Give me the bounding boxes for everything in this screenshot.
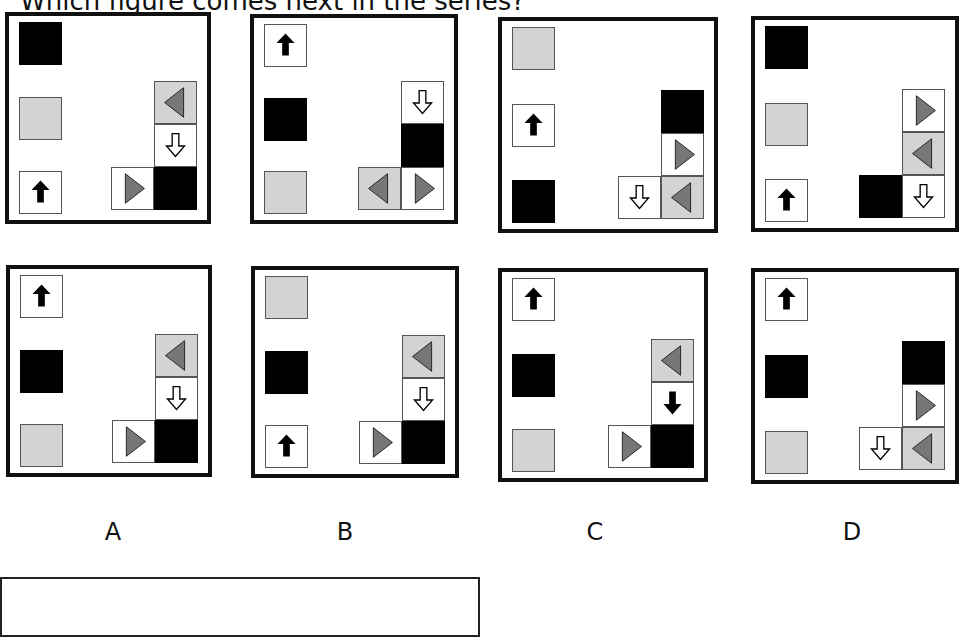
option-panel-c[interactable] xyxy=(498,268,708,482)
right-triangle-icon xyxy=(401,167,444,210)
right-triangle-icon xyxy=(608,425,651,468)
series-panel-2 xyxy=(250,14,458,224)
series-panel-4 xyxy=(751,16,959,232)
black-square xyxy=(651,425,694,468)
up-arrow-icon xyxy=(765,278,808,321)
black-square xyxy=(19,22,62,65)
black-square xyxy=(402,421,445,464)
gray-square xyxy=(765,431,808,474)
up-arrow-icon xyxy=(265,425,308,468)
left-triangle-icon xyxy=(651,339,694,382)
right-triangle-icon xyxy=(902,384,945,427)
up-arrow-icon xyxy=(19,171,62,214)
option-label-b[interactable]: B xyxy=(325,518,365,546)
down-arrow-hollow-icon xyxy=(618,176,661,219)
black-square xyxy=(765,26,808,69)
down-arrow-filled-icon xyxy=(651,382,694,425)
black-square xyxy=(401,124,444,167)
down-arrow-hollow-icon xyxy=(402,378,445,421)
black-square xyxy=(265,351,308,394)
down-arrow-hollow-icon xyxy=(154,124,197,167)
gray-square xyxy=(19,97,62,140)
gray-square xyxy=(512,429,555,472)
black-square xyxy=(264,98,307,141)
black-square xyxy=(661,90,704,133)
left-triangle-icon xyxy=(358,167,401,210)
option-label-d[interactable]: D xyxy=(832,518,872,546)
gray-square xyxy=(512,27,555,70)
black-square xyxy=(512,354,555,397)
down-arrow-hollow-icon xyxy=(401,81,444,124)
black-square xyxy=(512,180,555,223)
gray-square xyxy=(264,171,307,214)
gray-square xyxy=(265,276,308,319)
gray-square xyxy=(20,424,63,467)
down-arrow-hollow-icon xyxy=(155,377,198,420)
black-square xyxy=(155,420,198,463)
answer-input-box[interactable] xyxy=(0,577,480,637)
left-triangle-icon xyxy=(402,335,445,378)
right-triangle-icon xyxy=(359,421,402,464)
black-square xyxy=(765,355,808,398)
option-panel-a[interactable] xyxy=(6,265,212,477)
left-triangle-icon xyxy=(661,176,704,219)
right-triangle-icon xyxy=(111,167,154,210)
right-triangle-icon xyxy=(902,89,945,132)
black-square xyxy=(902,341,945,384)
gray-square xyxy=(765,103,808,146)
up-arrow-icon xyxy=(512,104,555,147)
series-panel-1 xyxy=(5,12,211,224)
up-arrow-icon xyxy=(264,24,307,67)
option-label-a[interactable]: A xyxy=(93,518,133,546)
right-triangle-icon xyxy=(661,133,704,176)
option-panel-d[interactable] xyxy=(751,268,959,484)
option-label-c[interactable]: C xyxy=(575,518,615,546)
black-square xyxy=(20,350,63,393)
black-square xyxy=(154,167,197,210)
black-square xyxy=(859,175,902,218)
down-arrow-hollow-icon xyxy=(902,175,945,218)
option-panel-b[interactable] xyxy=(251,266,459,478)
series-panel-3 xyxy=(498,17,718,233)
left-triangle-icon xyxy=(154,81,197,124)
left-triangle-icon xyxy=(155,334,198,377)
down-arrow-hollow-icon xyxy=(859,427,902,470)
up-arrow-icon xyxy=(512,278,555,321)
up-arrow-icon xyxy=(765,179,808,222)
left-triangle-icon xyxy=(902,132,945,175)
up-arrow-icon xyxy=(20,275,63,318)
right-triangle-icon xyxy=(112,420,155,463)
left-triangle-icon xyxy=(902,427,945,470)
